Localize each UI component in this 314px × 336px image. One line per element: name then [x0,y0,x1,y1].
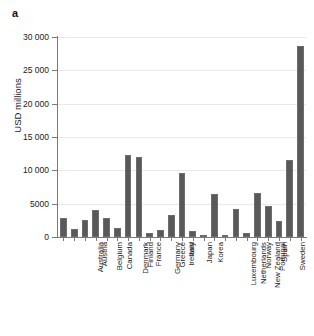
x-tick-mark [214,238,215,241]
x-tick-mark [96,238,97,241]
bar [265,206,272,237]
bar [189,231,196,237]
x-tick-mark [301,238,302,241]
y-tick-label: 10 000 [23,166,49,175]
y-tick-label: 0 [44,233,49,242]
bar [82,220,89,237]
bar [211,194,218,237]
x-axis-label: Austria [102,242,110,266]
x-axis-label: Italy [189,242,197,256]
bar [125,155,132,237]
gridline [58,170,306,171]
y-axis-title: USD millions [12,56,23,156]
gridline [58,70,306,71]
x-axis-label: Spain [281,242,289,262]
chart-figure: a USD millions 0500010 00015 00020 00025… [0,0,314,336]
x-tick-mark [257,238,258,241]
x-tick-mark [63,238,64,241]
y-tick-label: 25 000 [23,66,49,75]
bar [103,218,110,237]
x-tick-mark [193,238,194,241]
x-tick-mark [290,238,291,241]
bar [60,218,67,237]
x-tick-mark [117,238,118,241]
y-tick-label: 30 000 [23,33,49,42]
x-axis-label: Luxembourg [250,242,258,285]
x-axis-label: Finland [146,242,154,268]
bar [71,229,78,237]
x-tick-mark [268,238,269,241]
bar [286,160,293,237]
x-axis-label: Korea [217,242,225,263]
x-tick-mark [225,238,226,241]
y-tick-label: 5000 [30,200,49,209]
x-tick-mark [204,238,205,241]
gridline [58,104,306,105]
x-axis-label: Norway [266,242,274,268]
y-tick-label: 20 000 [23,100,49,109]
bar [276,221,283,237]
bar [168,215,175,237]
x-tick-mark [247,238,248,241]
x-axis-label: Sweden [300,242,308,270]
plot-area [58,37,306,237]
x-tick-mark [74,238,75,241]
bar [233,209,240,237]
x-tick-mark [139,238,140,241]
x-tick-mark [279,238,280,241]
x-tick-mark [128,238,129,241]
x-tick-mark [171,238,172,241]
bar [254,193,261,237]
bar [222,235,229,237]
bar [114,228,121,237]
x-tick-mark [160,238,161,241]
y-tick-label: 15 000 [23,133,49,142]
x-tick-mark [85,238,86,241]
gridline [58,137,306,138]
x-axis-label: France [156,242,164,266]
bar [146,233,153,237]
bar [179,173,186,237]
bar [297,46,304,237]
x-tick-mark [107,238,108,241]
bar [92,210,99,237]
x-tick-mark [236,238,237,241]
bar [200,235,207,237]
panel-label: a [12,8,18,19]
x-axis-label: Greece [178,242,186,268]
bar [136,157,143,237]
x-axis-label: Canada [126,242,134,269]
x-tick-mark [182,238,183,241]
gridline [58,37,306,38]
bar [157,230,164,237]
bar [243,233,250,237]
x-axis-label: Belgium [116,242,124,270]
x-axis-label: Japan [206,242,214,263]
x-tick-mark [150,238,151,241]
